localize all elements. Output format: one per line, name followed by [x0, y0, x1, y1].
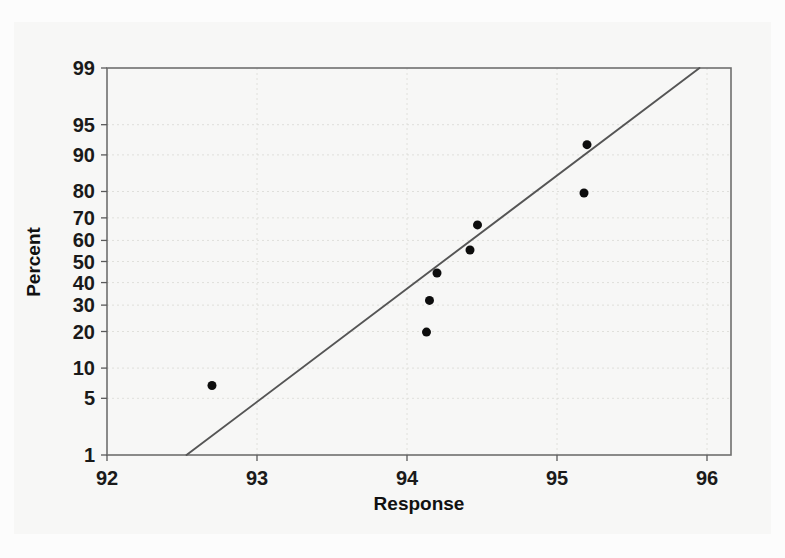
y-tick-label: 90	[73, 144, 95, 166]
data-point	[466, 245, 475, 254]
y-axis-title: Percent	[23, 226, 44, 296]
normal-probability-plot-figure: 151020304050607080909599 9293949596 Resp…	[0, 0, 785, 558]
y-axis-tick-labels: 151020304050607080909599	[73, 57, 95, 466]
x-axis-title: Response	[374, 493, 465, 514]
data-points	[208, 140, 592, 390]
gridlines	[107, 68, 731, 455]
data-point	[433, 269, 442, 278]
y-tick-label: 40	[73, 272, 95, 294]
x-tick-label: 94	[396, 467, 419, 489]
y-tick-label: 60	[73, 229, 95, 251]
data-point	[425, 296, 434, 305]
y-tick-label: 99	[73, 57, 95, 79]
y-tick-label: 95	[73, 114, 95, 136]
tick-marks	[101, 68, 707, 461]
y-tick-label: 50	[73, 251, 95, 273]
y-tick-label: 5	[84, 387, 95, 409]
y-tick-label: 20	[73, 321, 95, 343]
x-tick-label: 96	[696, 467, 718, 489]
data-point	[422, 328, 431, 337]
data-point	[583, 140, 592, 149]
y-tick-label: 1	[84, 444, 95, 466]
y-tick-label: 80	[73, 180, 95, 202]
x-tick-label: 93	[246, 467, 268, 489]
x-tick-label: 95	[546, 467, 568, 489]
data-point	[473, 220, 482, 229]
x-axis-tick-labels: 9293949596	[96, 467, 718, 489]
x-tick-label: 92	[96, 467, 118, 489]
data-point	[208, 381, 217, 390]
y-tick-label: 70	[73, 207, 95, 229]
y-tick-label: 10	[73, 357, 95, 379]
data-point	[580, 188, 589, 197]
chart-canvas: 151020304050607080909599 9293949596 Resp…	[0, 0, 785, 558]
y-tick-label: 30	[73, 294, 95, 316]
